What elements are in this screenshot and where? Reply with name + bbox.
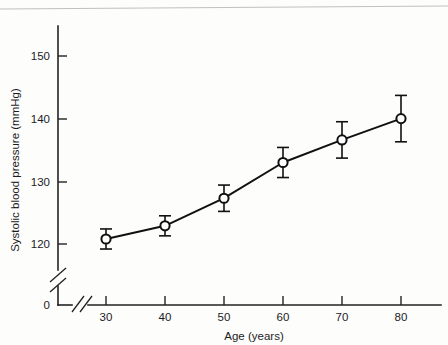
y-tick-label-120: 120 <box>31 238 50 250</box>
y-tick-marks <box>58 56 67 244</box>
y-axis-title: Systolic blood pressure (mmHg) <box>9 88 21 252</box>
error-bars-group <box>100 95 407 249</box>
scan-artifact-line <box>0 6 448 9</box>
y-tick-label-130: 130 <box>31 176 50 188</box>
x-tick-label-30: 30 <box>100 311 113 323</box>
x-axis-break-mark <box>72 296 92 312</box>
x-tick-label-50: 50 <box>218 311 231 323</box>
data-point-marker <box>219 194 228 203</box>
x-tick-label-80: 80 <box>395 311 408 323</box>
origin-label: 0 <box>44 299 50 311</box>
data-point-marker <box>337 135 346 144</box>
x-tick-label-70: 70 <box>336 311 349 323</box>
x-tick-label-40: 40 <box>159 311 172 323</box>
y-tick-label-140: 140 <box>31 113 50 125</box>
y-tick-label-150: 150 <box>31 50 50 62</box>
data-point-marker <box>101 234 110 243</box>
data-point-marker <box>396 114 405 123</box>
series-line-systolic-bp <box>106 119 401 239</box>
chart-svg: 150 140 130 120 0 Systolic blood pressur… <box>0 0 448 345</box>
figure-canvas: 150 140 130 120 0 Systolic blood pressur… <box>0 0 448 345</box>
x-tick-label-60: 60 <box>277 311 290 323</box>
data-point-marker <box>160 221 169 230</box>
x-tick-marks <box>106 296 401 305</box>
data-point-marker <box>278 158 287 167</box>
x-axis-title: Age (years) <box>224 330 284 342</box>
